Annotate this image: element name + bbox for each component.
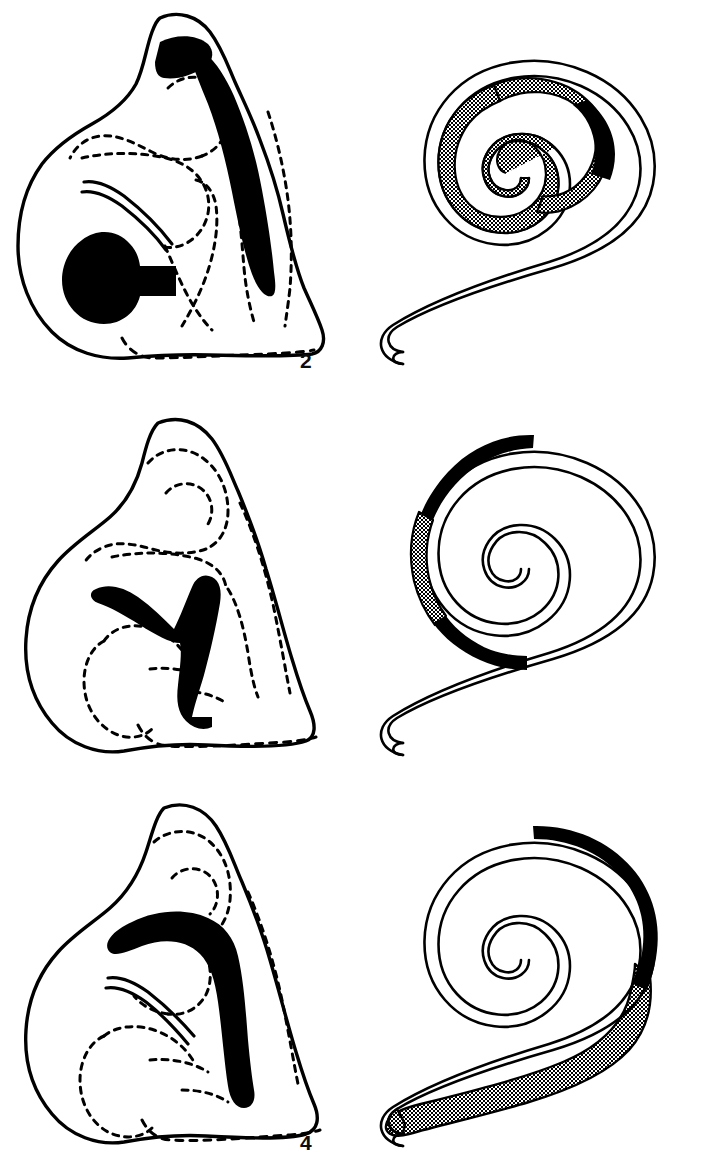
panel-spiral-3: 3 xyxy=(357,391,714,782)
panel-cross-section-6: 6 xyxy=(0,782,357,1173)
spiral-outer-edge xyxy=(388,61,654,352)
spiral-tail-tip xyxy=(393,352,403,364)
capsule-outline xyxy=(26,805,318,1143)
panel-cross-section-4: 4 xyxy=(0,391,357,782)
panel-5-drawing xyxy=(357,782,714,1173)
panel-6-drawing xyxy=(0,782,357,1173)
panel-spiral-1: 1 xyxy=(357,0,714,391)
panel-1-drawing xyxy=(357,0,714,391)
spiral-inner-edge xyxy=(381,467,640,755)
figure-root: 2 1 xyxy=(0,0,714,1173)
panel-4-drawing xyxy=(0,391,357,782)
panel-2-drawing xyxy=(0,0,357,391)
spiral-tail-tip xyxy=(393,743,403,755)
black-upper-segment xyxy=(421,435,534,520)
panel-spiral-5: 5 xyxy=(357,782,714,1173)
spiral-band xyxy=(381,61,655,364)
panel-label-2: 2 xyxy=(300,350,312,371)
black-segment xyxy=(573,100,615,180)
panel-3-drawing xyxy=(357,391,714,782)
panel-cross-section-2: 2 xyxy=(0,0,357,391)
stippled-basal-segment xyxy=(386,964,651,1136)
capsule-outline xyxy=(26,420,314,752)
